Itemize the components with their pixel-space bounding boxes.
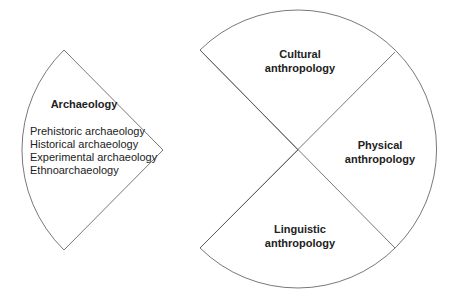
- archaeology-list: Prehistoric archaeology Historical archa…: [30, 125, 157, 177]
- archaeology-title: Archaeology: [44, 97, 124, 111]
- linguistic-anthropology-label: Linguisticanthropology: [245, 222, 355, 250]
- list-item: Historical archaeology: [30, 138, 157, 151]
- physical-anthropology-label: Physicalanthropology: [335, 138, 425, 166]
- list-item: Experimental archaeology: [30, 151, 157, 164]
- list-item: Prehistoric archaeology: [30, 125, 157, 138]
- cultural-anthropology-label: Culturalanthropology: [245, 47, 355, 75]
- list-item: Ethnoarchaeology: [30, 164, 157, 177]
